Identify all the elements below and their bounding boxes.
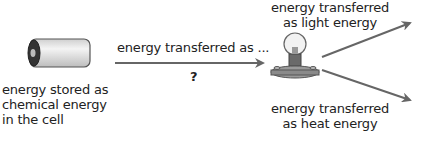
cell-label: energy stored as chemical energy in the …: [2, 82, 108, 127]
heat-energy-label: energy transferred as heat energy: [268, 101, 392, 131]
heat-label-line1: energy transferred: [268, 101, 392, 116]
light-energy-label: energy transferred as light energy: [268, 0, 392, 30]
unknown-energy-label: ?: [190, 69, 197, 84]
cell-label-line2: chemical energy: [2, 97, 108, 112]
battery-cell-icon: [28, 39, 90, 67]
cell-label-line3: in the cell: [2, 112, 108, 127]
light-bulb-icon: [271, 33, 319, 78]
heat-label-line2: as heat energy: [268, 116, 392, 131]
arrow-to-heat: [322, 70, 410, 100]
light-label-line1: energy transferred: [268, 0, 392, 15]
light-label-line2: as light energy: [268, 15, 392, 30]
cell-label-line1: energy stored as: [2, 82, 108, 97]
transfer-label: energy transferred as ...: [117, 40, 269, 55]
